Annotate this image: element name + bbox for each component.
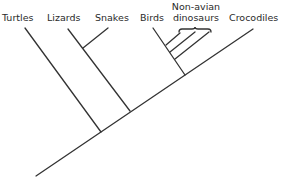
branch-snakes xyxy=(83,28,108,48)
branch-dinosaur-1 xyxy=(166,33,180,45)
branch-turtles xyxy=(25,28,101,132)
branch-dinosaur-2 xyxy=(170,32,195,52)
dinosaur-bracket xyxy=(179,27,211,32)
root-stem xyxy=(36,29,253,176)
cladogram xyxy=(0,0,283,183)
branch-birds xyxy=(153,28,185,75)
branch-dinosaur-3 xyxy=(175,32,209,59)
